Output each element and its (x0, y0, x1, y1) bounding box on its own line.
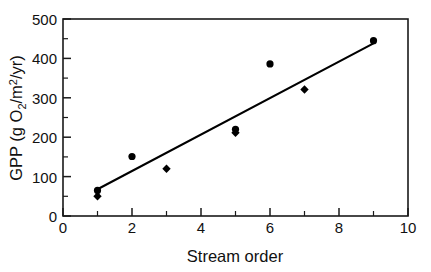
x-tick-label: 2 (128, 219, 136, 236)
y-title-mid: /m (7, 85, 25, 103)
x-tick-label: 10 (400, 219, 417, 236)
y-axis-title: GPP (g O2/m2/yr) (7, 55, 28, 181)
data-point-circle (370, 37, 377, 44)
chart-figure: 0 2 4 6 8 10 0 100 200 300 400 500 Strea… (0, 0, 431, 272)
data-point-circle (128, 153, 135, 160)
y-tick-label: 400 (32, 50, 57, 67)
x-tick-label: 4 (197, 219, 205, 236)
y-tick-label: 200 (32, 129, 57, 146)
y-tick-label: 100 (32, 169, 57, 186)
x-tick-label: 6 (266, 219, 274, 236)
y-title-lead: GPP (g O (7, 109, 25, 180)
y-tick-label: 0 (49, 208, 57, 225)
x-tick-label: 0 (59, 219, 67, 236)
y-tick-label: 300 (32, 90, 57, 107)
x-axis-title: Stream order (187, 247, 284, 265)
x-tick-label: 8 (335, 219, 343, 236)
scatter-plot: 0 2 4 6 8 10 0 100 200 300 400 500 Strea… (0, 0, 431, 272)
y-tick-label: 500 (32, 11, 57, 28)
y-title-tail: /yr) (7, 55, 25, 79)
data-point-circle (266, 60, 273, 67)
